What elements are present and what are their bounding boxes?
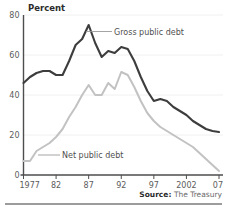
gross-annotation-label: Gross public debt — [114, 28, 184, 37]
x-tick-label-2007: 07 — [213, 181, 223, 190]
chart-figure: Percent020406080197782879297200207Gross … — [0, 0, 227, 210]
y-tick-label-80: 80 — [9, 11, 19, 20]
y-tick-label-0: 0 — [14, 171, 19, 180]
x-tick-label-2002: 2002 — [176, 181, 196, 190]
source-value: The Treasury — [173, 190, 223, 199]
x-tick-label-1992: 92 — [116, 181, 126, 190]
public-debt-line-chart: Percent020406080197782879297200207Gross … — [0, 0, 227, 210]
series-line-gross-public-debt — [24, 25, 220, 132]
y-tick-label-20: 20 — [9, 131, 19, 140]
x-tick-label-1982: 82 — [51, 181, 61, 190]
x-tick-label-1997: 97 — [149, 181, 159, 190]
y-tick-label-60: 60 — [9, 51, 19, 60]
x-tick-label-1987: 87 — [84, 181, 94, 190]
y-tick-label-40: 40 — [9, 91, 19, 100]
net-annotation-label: Net public debt — [62, 151, 123, 160]
source-label: Source: — [139, 190, 171, 199]
y-axis-title: Percent — [28, 3, 65, 13]
x-tick-label-1977: 1977 — [20, 181, 40, 190]
